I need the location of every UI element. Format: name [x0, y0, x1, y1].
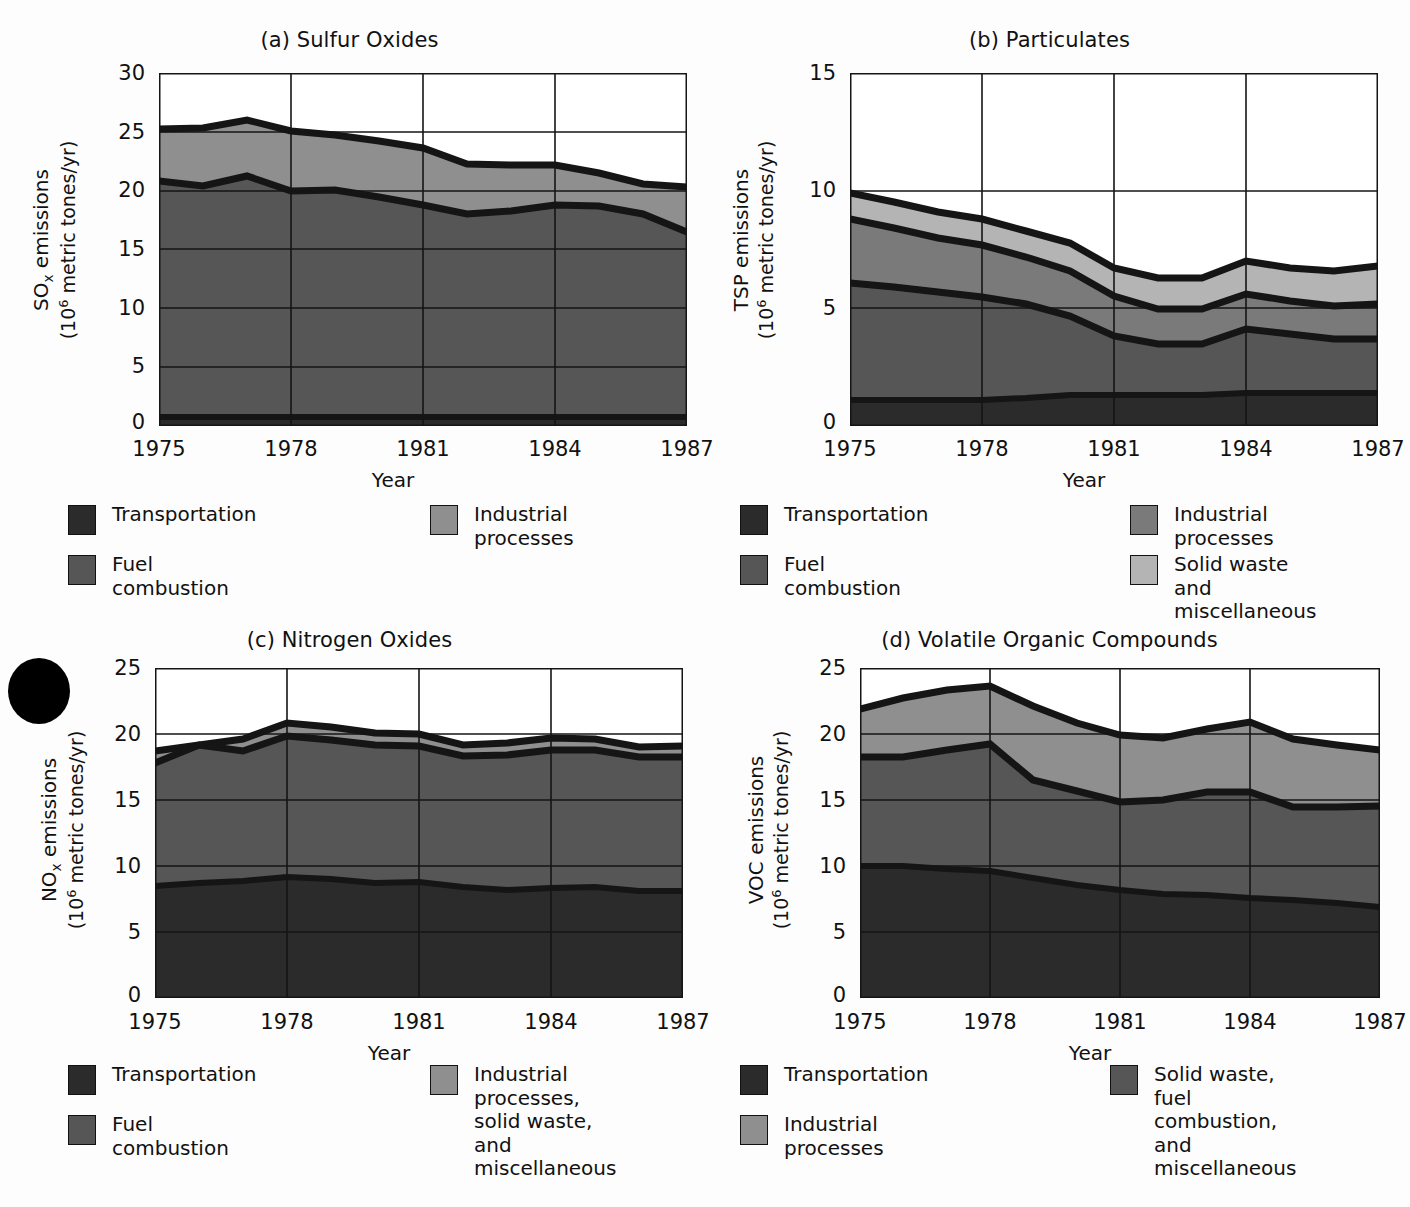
legend-label-transportation: Transportation [112, 503, 256, 527]
panel-d-plot [860, 668, 1380, 998]
panel-b-title: (b) Particulates [700, 28, 1399, 52]
panel-b-xtick-1981: 1981 [1074, 437, 1154, 461]
legend-item-industrial-processes[interactable]: Industrial processes [1130, 503, 1274, 550]
panel-volatile-organic-compounds: (d) Volatile Organic Compounds VOC emiss… [700, 600, 1399, 1200]
legend-item-fuel-combustion[interactable]: Fuel combustion [740, 553, 901, 600]
legend-item-transportation[interactable]: Transportation [740, 1063, 928, 1095]
panel-b-plot [850, 73, 1378, 426]
panel-d-ytick-20: 20 [796, 722, 846, 746]
panel-a-ytick-20: 20 [95, 178, 145, 202]
panel-d-ytick-0: 0 [796, 983, 846, 1007]
panel-b-ytick-10: 10 [786, 178, 836, 202]
panel-a-title: (a) Sulfur Oxides [0, 28, 699, 52]
legend-item-industrial-processes[interactable]: Industrial processes [740, 1113, 884, 1160]
panel-b-xtick-1975: 1975 [810, 437, 890, 461]
panel-a-xtick-1984: 1984 [515, 437, 595, 461]
panel-c-ytick-15: 15 [91, 788, 141, 812]
legend-swatch-transportation [740, 505, 768, 535]
panel-c-xtick-1975: 1975 [115, 1010, 195, 1034]
legend-label-transportation: Transportation [784, 503, 928, 527]
panel-b-ytick-5: 5 [786, 296, 836, 320]
panel-a-ytick-15: 15 [95, 237, 145, 261]
panel-a-ytick-30: 30 [95, 61, 145, 85]
legend-item-solidwaste-fuel-misc[interactable]: Solid waste, fuel combustion, and miscel… [1110, 1063, 1296, 1181]
panel-d-x-axis-label: Year [1040, 1041, 1140, 1065]
legend-item-fuel-combustion[interactable]: Fuel combustion [68, 1113, 229, 1160]
legend-swatch-transportation [68, 505, 96, 535]
panel-c-xtick-1978: 1978 [247, 1010, 327, 1034]
panel-c-y-axis-label: NOx emissions (106 metric tones/yr) [38, 655, 88, 1005]
panel-c-svg [155, 668, 683, 998]
legend-swatch-transportation [68, 1065, 96, 1095]
panel-b-ytick-0: 0 [786, 410, 836, 434]
panel-a-ytick-10: 10 [95, 296, 145, 320]
panel-d-ytick-10: 10 [796, 854, 846, 878]
legend-label-fuel-combustion: Fuel combustion [112, 1113, 229, 1160]
legend-swatch-industrial-solidwaste-misc [430, 1065, 458, 1095]
panel-a-x-axis-label: Year [343, 468, 443, 492]
legend-swatch-solidwaste-fuel-misc [1110, 1065, 1138, 1095]
panel-d-xtick-1981: 1981 [1080, 1010, 1160, 1034]
legend-item-transportation[interactable]: Transportation [68, 503, 256, 535]
legend-label-transportation: Transportation [112, 1063, 256, 1087]
panel-c-title: (c) Nitrogen Oxides [0, 628, 699, 652]
panel-d-xtick-1984: 1984 [1210, 1010, 1290, 1034]
panel-b-x-axis-label: Year [1034, 468, 1134, 492]
panel-nitrogen-oxides: (c) Nitrogen Oxides NOx emissions (106 m… [0, 600, 699, 1200]
panel-b-xtick-1987: 1987 [1338, 437, 1410, 461]
legend-label-industrial-solidwaste-misc: Industrial processes, solid waste, and m… [474, 1063, 616, 1181]
panel-d-y-axis-label: VOC emissions (106 metric tones/yr) [745, 655, 792, 1005]
panel-a-ytick-0: 0 [95, 410, 145, 434]
panel-d-ytick-5: 5 [796, 920, 846, 944]
panel-c-xtick-1981: 1981 [379, 1010, 459, 1034]
panel-c-xtick-1984: 1984 [511, 1010, 591, 1034]
legend-item-transportation[interactable]: Transportation [68, 1063, 256, 1095]
legend-label-industrial-processes: Industrial processes [1174, 503, 1274, 550]
legend-label-fuel-combustion: Fuel combustion [784, 553, 901, 600]
panel-b-xtick-1978: 1978 [942, 437, 1022, 461]
panel-c-plot [155, 668, 683, 998]
legend-swatch-industrial-processes [740, 1115, 768, 1145]
panel-a-y-axis-label: SOx emissions (106 metric tones/yr) [30, 60, 80, 420]
panel-c-ytick-25: 25 [91, 656, 141, 680]
legend-label-fuel-combustion: Fuel combustion [112, 553, 229, 600]
legend-label-industrial-processes: Industrial processes [784, 1113, 884, 1160]
panel-a-svg [159, 73, 687, 426]
panel-d-ytick-15: 15 [796, 788, 846, 812]
legend-swatch-fuel-combustion [740, 555, 768, 585]
legend-swatch-industrial-processes [1130, 505, 1158, 535]
panel-a-plot [159, 73, 687, 426]
legend-item-industrial-processes[interactable]: Industrial processes [430, 503, 574, 550]
legend-swatch-transportation [740, 1065, 768, 1095]
legend-swatch-fuel-combustion [68, 555, 96, 585]
panel-b-svg [850, 73, 1378, 426]
panel-b-xtick-1984: 1984 [1206, 437, 1286, 461]
panel-a-xtick-1981: 1981 [383, 437, 463, 461]
legend-item-fuel-combustion[interactable]: Fuel combustion [68, 553, 229, 600]
legend-swatch-industrial-processes [430, 505, 458, 535]
panel-b-y-axis-label: TSP emissions (106 metric tones/yr) [730, 60, 777, 420]
panel-d-xtick-1978: 1978 [950, 1010, 1030, 1034]
panel-c-x-axis-label: Year [339, 1041, 439, 1065]
legend-swatch-solid-waste-misc [1130, 555, 1158, 585]
panel-d-svg [860, 668, 1380, 998]
legend-label-transportation: Transportation [784, 1063, 928, 1087]
panel-d-xtick-1975: 1975 [820, 1010, 900, 1034]
legend-item-industrial-solidwaste-misc[interactable]: Industrial processes, solid waste, and m… [430, 1063, 616, 1181]
panel-a-xtick-1975: 1975 [119, 437, 199, 461]
panel-b-ytick-15: 15 [786, 61, 836, 85]
panel-particulates: (b) Particulates TSP emissions (106 metr… [700, 0, 1399, 600]
panel-c-ytick-10: 10 [91, 854, 141, 878]
legend-swatch-fuel-combustion [68, 1115, 96, 1145]
panel-a-ytick-5: 5 [95, 354, 145, 378]
panel-a-xtick-1978: 1978 [251, 437, 331, 461]
panel-a-ytick-25: 25 [95, 120, 145, 144]
panel-c-ytick-0: 0 [91, 983, 141, 1007]
panel-d-ytick-25: 25 [796, 656, 846, 680]
panel-c-ytick-20: 20 [91, 722, 141, 746]
panel-d-title: (d) Volatile Organic Compounds [700, 628, 1399, 652]
legend-item-transportation[interactable]: Transportation [740, 503, 928, 535]
panel-d-xtick-1987: 1987 [1340, 1010, 1410, 1034]
legend-label-solidwaste-fuel-misc: Solid waste, fuel combustion, and miscel… [1154, 1063, 1296, 1181]
panel-sulfur-oxides: (a) Sulfur Oxides SOx emissions (106 met… [0, 0, 699, 600]
